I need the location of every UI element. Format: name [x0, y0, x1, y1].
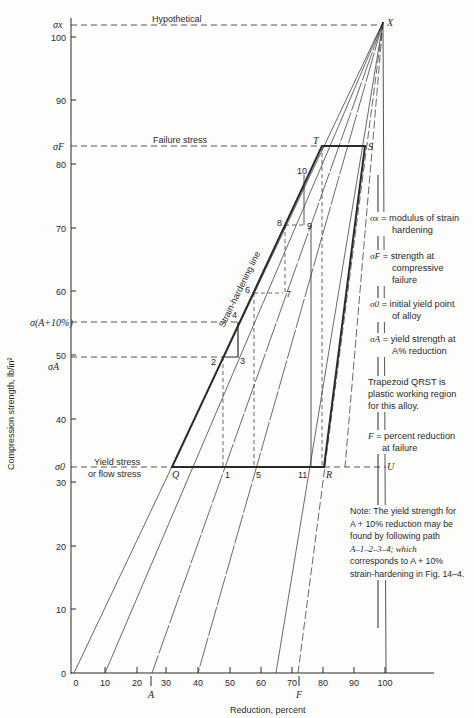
svg-text:30: 30: [56, 478, 66, 488]
svg-text:1: 1: [225, 470, 230, 480]
x-ticks: [105, 667, 385, 686]
svg-text:20: 20: [56, 542, 66, 552]
svg-text:90: 90: [349, 678, 359, 688]
x-axis-title: Reduction, percent: [230, 705, 306, 715]
svg-text:7: 7: [286, 289, 291, 299]
legend-sigma-f: σF = strength at compressive failure: [370, 250, 474, 286]
point-q-label: Q: [172, 469, 180, 480]
svg-text:8: 8: [277, 218, 282, 228]
sigma-a10-label: σ(A+10%): [30, 317, 73, 329]
sigma-0-label: σ0: [55, 461, 65, 472]
point-u-label: U: [387, 461, 395, 472]
legend-sigma-a: σA = yield strength at A% reduction: [370, 333, 474, 357]
sigma-x-label: σx: [53, 19, 63, 30]
svg-text:10: 10: [56, 605, 66, 615]
point-t-label: T: [313, 135, 320, 146]
legend-f: F = percent reduction at failure: [368, 430, 474, 454]
svg-text:100: 100: [51, 33, 66, 43]
path-verticals: [223, 146, 322, 467]
yield-stress-label: Yield stress: [94, 457, 141, 467]
strain-hardening-diagram: 01020 304050 607080 90100 01020 304050 6…: [0, 0, 474, 718]
svg-text:5: 5: [256, 470, 261, 480]
sigma-a-label: σA: [48, 361, 60, 372]
svg-text:40: 40: [193, 678, 203, 688]
legend-sigma-0: σ0 = initial yield point of alloy: [370, 298, 474, 322]
svg-text:50: 50: [56, 351, 66, 361]
svg-text:9: 9: [307, 221, 312, 231]
y-axis-title: Compression strength, lb/in²: [6, 357, 16, 470]
svg-text:70: 70: [56, 224, 66, 234]
a-marker-label: A: [147, 689, 155, 700]
svg-text:11: 11: [298, 470, 307, 480]
legend-trapezoid: Trapezoid QRST is plastic working region…: [368, 376, 474, 412]
note-text: Note: The yield strength for A + 10% red…: [350, 505, 474, 580]
svg-text:50: 50: [225, 678, 235, 688]
svg-text:6: 6: [245, 285, 250, 295]
hypothetical-label: Hypothetical: [152, 14, 202, 24]
flow-stress-label: or flow stress: [88, 469, 142, 479]
failure-stress-label: Failure stress: [153, 135, 208, 145]
svg-text:0: 0: [73, 678, 78, 688]
svg-text:60: 60: [56, 287, 66, 297]
reference-lines: [71, 25, 386, 467]
x-tick-labels: 01020 304050 607080 90100: [73, 678, 392, 688]
svg-text:80: 80: [56, 160, 66, 170]
svg-text:30: 30: [161, 678, 171, 688]
svg-text:40: 40: [56, 415, 66, 425]
svg-text:60: 60: [256, 678, 266, 688]
point-r-label: R: [325, 469, 332, 480]
svg-text:80: 80: [318, 678, 328, 688]
y-tick-labels: 01020 304050 607080 90100: [51, 33, 66, 679]
svg-text:2: 2: [211, 357, 216, 367]
svg-text:10: 10: [100, 678, 110, 688]
svg-text:90: 90: [56, 96, 66, 106]
svg-text:100: 100: [377, 678, 392, 688]
svg-text:10: 10: [297, 166, 307, 176]
sigma-f-label: σF: [53, 141, 65, 152]
svg-text:3: 3: [240, 356, 245, 366]
point-s-label: S: [368, 141, 373, 152]
point-x-label: X: [386, 17, 394, 28]
svg-text:70: 70: [287, 678, 297, 688]
svg-text:0: 0: [61, 669, 66, 679]
legend-sigma-x: σx = modulus of strain hardening: [370, 212, 474, 236]
f-marker-label: F: [295, 689, 303, 700]
svg-text:4: 4: [232, 310, 237, 320]
svg-text:20: 20: [132, 678, 142, 688]
